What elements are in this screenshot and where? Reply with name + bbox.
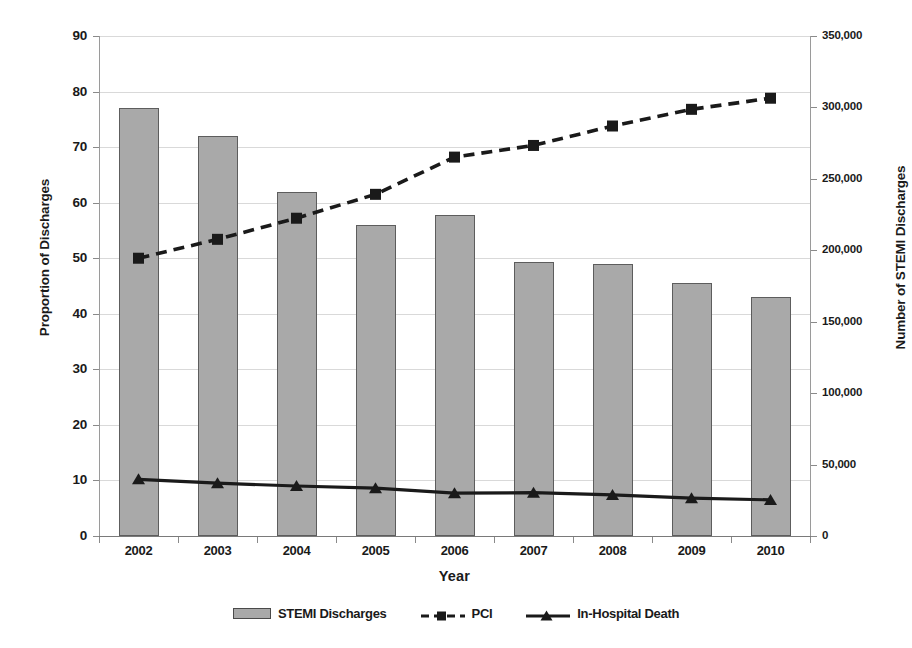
bar-2007 <box>514 262 554 536</box>
x-axis-tick <box>652 537 653 543</box>
y-axis-right-tick <box>811 393 817 394</box>
y-axis-right-tick <box>811 107 817 108</box>
x-axis-tick-label: 2004 <box>262 543 332 558</box>
x-axis-tick <box>810 537 811 543</box>
x-axis-tick-label: 2010 <box>736 543 806 558</box>
y-axis-right-tick-label: 150,000 <box>822 315 894 327</box>
chart-legend: STEMI Discharges PCI In-Hospital Death <box>0 606 912 621</box>
bar-swatch-icon <box>233 608 271 619</box>
x-axis-tick <box>573 537 574 543</box>
y-axis-right-tick <box>811 536 817 537</box>
legend-label: STEMI Discharges <box>278 606 387 621</box>
y-axis-left-tick-label: 10 <box>45 472 87 487</box>
x-axis-tick-label: 2003 <box>183 543 253 558</box>
bar-2003 <box>198 136 238 536</box>
y-axis-left-tick <box>93 36 99 37</box>
bar-2010 <box>751 297 791 536</box>
y-axis-right-tick <box>811 36 817 37</box>
legend-item-stemi-discharges[interactable]: STEMI Discharges <box>233 606 387 621</box>
y-axis-right-title: Number of STEMI Discharges <box>893 118 908 398</box>
bar-2002 <box>119 108 159 536</box>
y-axis-right-tick-label: 250,000 <box>822 172 894 184</box>
y-axis-right-tick-label: 50,000 <box>822 458 894 470</box>
y-axis-right-tick <box>811 322 817 323</box>
y-axis-left-tick-label: 80 <box>45 84 87 99</box>
y-axis-left-tick-label: 20 <box>45 417 87 432</box>
bar-2004 <box>277 192 317 536</box>
y-axis-left-title: Proportion of Discharges <box>37 148 52 368</box>
x-axis-tick <box>178 537 179 543</box>
y-axis-right-tick-label: 300,000 <box>822 100 894 112</box>
solid-triangle-marker-icon <box>526 608 570 620</box>
y-axis-right-tick-label: 0 <box>822 529 894 541</box>
gridline <box>99 92 810 93</box>
x-axis-tick-label: 2005 <box>341 543 411 558</box>
gridline <box>99 36 810 37</box>
x-axis-tick-label: 2007 <box>499 543 569 558</box>
legend-label: In-Hospital Death <box>577 606 679 621</box>
x-axis-tick-label: 2002 <box>104 543 174 558</box>
y-axis-right-tick <box>811 465 817 466</box>
y-axis-left-tick <box>93 480 99 481</box>
x-axis-tick <box>415 537 416 543</box>
y-axis-right-tick <box>811 179 817 180</box>
y-axis-left-tick-label: 0 <box>45 528 87 543</box>
x-axis-tick-label: 2006 <box>420 543 490 558</box>
x-axis-tick-label: 2008 <box>578 543 648 558</box>
y-axis-left-line <box>99 36 100 537</box>
y-axis-right-tick <box>811 250 817 251</box>
bar-2008 <box>593 264 633 536</box>
y-axis-left-tick <box>93 147 99 148</box>
y-axis-left-tick <box>93 258 99 259</box>
x-axis-tick <box>731 537 732 543</box>
legend-label: PCI <box>472 606 493 621</box>
bar-2006 <box>435 215 475 536</box>
y-axis-left-tick <box>93 369 99 370</box>
y-axis-left-tick <box>93 425 99 426</box>
y-axis-left-tick <box>93 314 99 315</box>
bar-2009 <box>672 283 712 536</box>
y-axis-left-tick <box>93 92 99 93</box>
y-axis-right-line <box>810 36 811 537</box>
bar-2005 <box>356 225 396 536</box>
x-axis-tick <box>257 537 258 543</box>
x-axis-line <box>99 536 811 537</box>
legend-item-pci[interactable]: PCI <box>421 606 493 621</box>
x-axis-tick <box>99 537 100 543</box>
y-axis-left-tick-label: 90 <box>45 28 87 43</box>
y-axis-right-tick-label: 200,000 <box>822 243 894 255</box>
chart-figure: 0102030405060708090050,000100,000150,000… <box>0 0 912 648</box>
y-axis-right-tick-label: 100,000 <box>822 386 894 398</box>
legend-item-in-hospital-death[interactable]: In-Hospital Death <box>526 606 679 621</box>
x-axis-title: Year <box>99 568 810 584</box>
y-axis-left-tick <box>93 203 99 204</box>
x-axis-tick <box>494 537 495 543</box>
dashed-square-marker-icon <box>421 608 465 620</box>
y-axis-right-tick-label: 350,000 <box>822 29 894 41</box>
x-axis-tick-label: 2009 <box>657 543 727 558</box>
x-axis-tick <box>336 537 337 543</box>
